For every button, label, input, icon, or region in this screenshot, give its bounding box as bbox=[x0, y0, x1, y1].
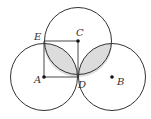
label-a: A bbox=[33, 74, 41, 85]
label-e: E bbox=[33, 31, 42, 42]
label-b: B bbox=[116, 76, 124, 87]
geometry-diagram: A B C D E bbox=[0, 0, 151, 119]
label-d: D bbox=[77, 79, 86, 90]
point-c-dot bbox=[76, 39, 80, 43]
point-a-dot bbox=[42, 75, 46, 79]
point-b-dot bbox=[110, 75, 114, 79]
label-c: C bbox=[76, 27, 84, 38]
